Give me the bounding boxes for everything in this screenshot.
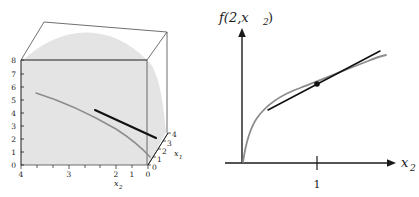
- x2-tick-2: 2: [114, 170, 119, 179]
- z-tick-7: 7: [11, 70, 16, 79]
- z-tick-2: 2: [11, 135, 16, 144]
- x2-axis-ticks: [21, 165, 148, 169]
- x-tick-1: 1: [314, 156, 321, 191]
- left-panel-3d-surface: 0 1 2 3 4 5 6 7 8: [0, 0, 210, 197]
- x1-tick-3: 3: [167, 139, 172, 148]
- x2-axis-tick-labels: 4 3 2 1 0: [19, 170, 151, 179]
- y-axis: [238, 28, 246, 163]
- x2-tick-0: 0: [146, 170, 151, 179]
- x-axis-label-sub: 2: [409, 163, 416, 173]
- x-axis-label: x 2: [401, 155, 416, 173]
- function-curve: [243, 55, 386, 162]
- x-axis-label-text: x: [401, 155, 409, 170]
- z-tick-3: 3: [11, 122, 16, 131]
- y-axis-label: f(2,x 2 ): [218, 10, 273, 27]
- x1-tick-1: 1: [157, 155, 162, 164]
- x1-tick-2: 2: [162, 147, 167, 156]
- left-plot-svg: 0 1 2 3 4 5 6 7 8: [0, 0, 210, 197]
- x1-tick-4: 4: [172, 130, 177, 139]
- x-axis: [225, 159, 396, 166]
- x2-axis-label: x 2: [114, 179, 123, 190]
- right-plot-svg: f(2,x 2 ) x 2 1: [205, 0, 419, 197]
- z-tick-4: 4: [11, 109, 16, 118]
- z-axis-tick-labels: 0 1 2 3 4 5 6 7 8: [11, 56, 16, 170]
- z-tick-0: 0: [11, 161, 16, 170]
- tangency-point: [314, 81, 320, 87]
- y-axis-label-close: ): [268, 10, 273, 25]
- z-tick-6: 6: [11, 83, 16, 92]
- z-tick-8: 8: [11, 56, 16, 65]
- x2-tick-3: 3: [67, 170, 72, 179]
- figure-root: 0 1 2 3 4 5 6 7 8: [0, 0, 419, 197]
- x2-axis-label-sub: 2: [118, 184, 123, 190]
- tangent-line: [268, 51, 380, 110]
- z-tick-5: 5: [11, 96, 16, 105]
- right-panel-slice-plot: f(2,x 2 ) x 2 1: [205, 0, 419, 197]
- x2-tick-4: 4: [19, 170, 24, 179]
- surface-shape: [21, 32, 166, 165]
- x-tick-1-label: 1: [314, 178, 321, 191]
- x1-tick-0: 0: [152, 163, 157, 172]
- x2-tick-1: 1: [130, 170, 135, 179]
- y-axis-label-text: f(2,x: [218, 10, 249, 25]
- x1-axis-label-sub: 1: [179, 154, 183, 160]
- z-tick-1: 1: [11, 148, 16, 157]
